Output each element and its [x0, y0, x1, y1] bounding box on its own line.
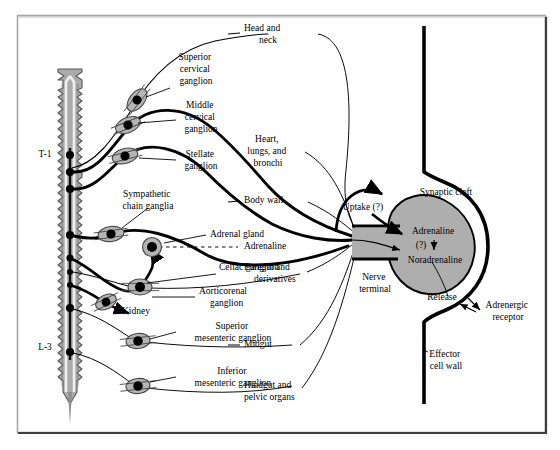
label-superior-cervical-ganglion: Superior cervical ganglion	[178, 52, 213, 86]
label-conversion-question: (?)	[416, 240, 427, 251]
sympathetic-nervous-system-figure: T-1 L-3 Superior cervical ganglion Middl…	[0, 0, 560, 450]
label-noradrenaline: Noradrenaline	[408, 255, 462, 265]
label-midgut: Midgut	[244, 339, 272, 349]
label-synaptic-cleft: Synaptic cleft	[420, 187, 473, 197]
diagram-canvas: T-1 L-3 Superior cervical ganglion Middl…	[0, 0, 560, 450]
spinal-cord	[58, 69, 82, 424]
label-release: Release	[427, 292, 457, 302]
gland-adrenal	[143, 238, 162, 257]
label-body-wall: Body wall	[244, 195, 284, 205]
label-middle-cervical-ganglion: Middle cervical ganglion	[184, 100, 217, 134]
label-adrenaline: Adrenaline	[244, 241, 286, 251]
label-adrenaline-terminal: Adrenaline	[412, 226, 454, 236]
segment-label-t1: T-1	[39, 149, 52, 159]
label-uptake: Uptake (?)	[343, 202, 383, 213]
label-kidney: Kidney	[122, 306, 150, 316]
label-adrenal-gland: Adrenal gland	[210, 229, 264, 239]
segment-label-l3: L-3	[38, 342, 52, 352]
